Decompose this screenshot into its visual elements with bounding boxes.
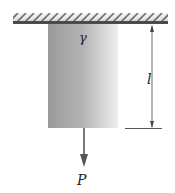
length-dimension: [125, 25, 162, 129]
specific-weight-label: γ: [79, 30, 87, 45]
bar-diagram: γ l P: [0, 0, 175, 193]
load-arrow: [80, 128, 88, 167]
fixed-support: [8, 13, 170, 24]
length-label: l: [147, 71, 151, 87]
load-label: P: [76, 172, 87, 188]
